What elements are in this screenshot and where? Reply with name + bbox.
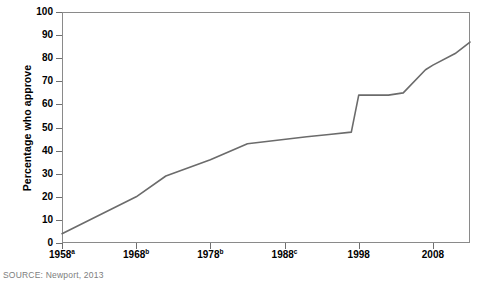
- y-tick-label: 100: [36, 7, 53, 17]
- y-tick-label: 40: [42, 146, 53, 156]
- x-tick-label: 1958a: [49, 249, 75, 260]
- y-tick-label: 50: [42, 123, 53, 133]
- data-line-layer: [62, 12, 470, 243]
- y-tick-label: 90: [42, 30, 53, 40]
- y-tick-label: 10: [42, 215, 53, 225]
- x-tick-label: 2008: [422, 249, 444, 260]
- y-tick-label: 70: [42, 76, 53, 86]
- x-tick-label: 1988c: [272, 249, 298, 260]
- y-tick-label: 80: [42, 53, 53, 63]
- source-note: SOURCE: Newport, 2013: [3, 270, 104, 280]
- x-tick-label: 1978b: [197, 249, 223, 260]
- series-line-percentage-who-approve: [62, 42, 470, 234]
- x-tick-label: 1968b: [123, 249, 149, 260]
- chart-figure: Percentage who approve 01020304050607080…: [0, 0, 479, 281]
- y-axis-title: Percentage who approve: [21, 13, 33, 243]
- y-tick-label: 20: [42, 192, 53, 202]
- y-tick-label: 30: [42, 169, 53, 179]
- x-tick-label: 1998: [348, 249, 370, 260]
- y-tick-label: 0: [47, 238, 53, 248]
- y-tick-label: 60: [42, 99, 53, 109]
